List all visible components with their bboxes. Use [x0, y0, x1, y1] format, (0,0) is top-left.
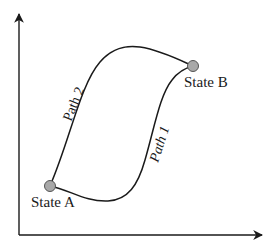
- path-2-label: Path 2: [60, 85, 87, 123]
- state-b-label: State B: [184, 74, 228, 90]
- state-a-label: State A: [31, 194, 75, 210]
- state-path-diagram: State A State B Path 2 Path 1: [0, 0, 270, 250]
- state-a-node: [45, 181, 56, 192]
- state-b-node: [188, 61, 199, 72]
- path-1-label: Path 1: [146, 124, 172, 165]
